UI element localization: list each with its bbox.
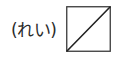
example-box	[66, 6, 111, 52]
diagonal-square-icon	[66, 6, 111, 52]
example-label: (れい)	[11, 19, 56, 41]
